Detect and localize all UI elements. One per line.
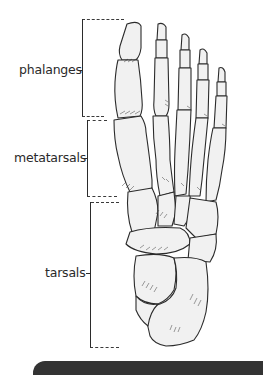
bottom-dark-bar (33, 361, 263, 375)
